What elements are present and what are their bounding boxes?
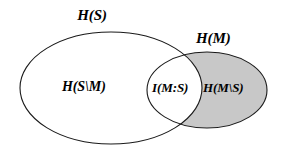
label-mutual-information: I(M:S)	[152, 81, 188, 94]
venn-diagram: H(S) H(M) H(S\M) I(M:S) H(M\S)	[0, 0, 282, 157]
venn-diagram-canvas	[0, 0, 282, 157]
label-message-conditional: H(M\S)	[203, 81, 244, 94]
label-source-conditional: H(S\M)	[62, 80, 106, 94]
label-message-entropy: H(M)	[196, 31, 231, 46]
label-source-entropy: H(S)	[0, 8, 233, 23]
